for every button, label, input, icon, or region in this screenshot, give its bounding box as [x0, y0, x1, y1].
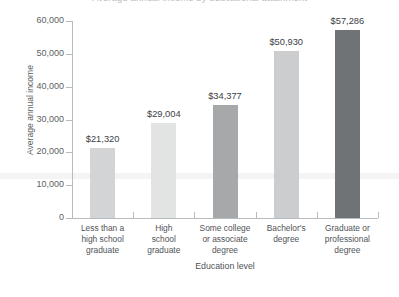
x-axis-category-label: Bachelor's degree: [256, 223, 317, 245]
y-axis-tick-label: 50,000: [4, 48, 64, 58]
x-axis-category-label: High school graduate: [133, 223, 194, 257]
y-axis-tick: [66, 120, 72, 121]
y-axis-tick: [66, 87, 72, 88]
bar-value-label: $34,377: [185, 91, 265, 101]
x-axis-category-label: Less than a high school graduate: [72, 223, 133, 257]
y-axis-tick-label: 40,000: [4, 81, 64, 91]
y-axis-tick: [66, 185, 72, 186]
x-axis-tick: [194, 212, 195, 218]
bar-value-label: $29,004: [124, 109, 204, 119]
y-axis-tick-label: 20,000: [4, 146, 64, 156]
y-axis-tick-label: 60,000: [4, 15, 64, 25]
x-axis-tick: [317, 212, 318, 218]
y-axis-tick: [66, 152, 72, 153]
y-axis-tick: [66, 21, 72, 22]
y-axis-tick-label: 0: [4, 212, 64, 222]
bar[interactable]: [274, 51, 299, 218]
x-axis-category-label: Graduate or professional degree: [317, 223, 378, 257]
y-axis-tick-label: 30,000: [4, 114, 64, 124]
x-axis-tick: [72, 212, 73, 218]
y-axis-tick-label: 10,000: [4, 179, 64, 189]
bar-value-label: $21,320: [63, 134, 143, 144]
y-axis-tick: [66, 54, 72, 55]
x-axis-tick: [378, 212, 379, 218]
bar[interactable]: [213, 105, 238, 218]
x-axis-category-label: Some college or associate degree: [194, 223, 255, 257]
chart-title: Average annual income by educational att…: [0, 0, 399, 4]
x-axis-tick: [133, 212, 134, 218]
y-axis-line: [72, 21, 73, 218]
x-axis-line: [72, 218, 378, 219]
bar[interactable]: [90, 148, 115, 218]
bar-value-label: $50,930: [246, 37, 326, 47]
bar[interactable]: [335, 30, 360, 218]
bar-value-label: $57,286: [307, 16, 387, 26]
y-axis-tick: [66, 218, 72, 219]
bar-chart: Average annual income by educational att…: [0, 0, 399, 297]
x-axis-title: Education level: [72, 261, 378, 271]
bar[interactable]: [151, 123, 176, 218]
x-axis-tick: [256, 212, 257, 218]
